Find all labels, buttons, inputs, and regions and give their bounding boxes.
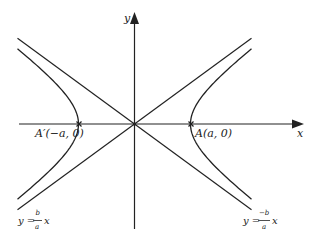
diagram-canvas: y x A′(−a, 0) A(a, 0) y = b a x y = −b a… (0, 0, 324, 241)
y-axis-label: y (123, 12, 131, 25)
asymptote-negative-equation: y = −b a x (242, 209, 278, 231)
hyperbola-diagram: y x A′(−a, 0) A(a, 0) y = b a x y = −b a… (0, 0, 324, 241)
asymptote-positive-equation: y = b a x (17, 209, 50, 231)
equation-numerator: b (36, 209, 41, 217)
vertex-right-label: A(a, 0) (194, 127, 232, 140)
vertex-left-label: A′(−a, 0) (34, 127, 84, 140)
x-axis-label: x (297, 127, 304, 140)
equation-lhs: y = (242, 215, 260, 226)
equation-lhs: y = (17, 215, 35, 226)
origin-point (133, 122, 136, 125)
equation-numerator: −b (259, 209, 270, 217)
equation-variable: x (44, 215, 50, 226)
y-axis-arrow-icon (130, 12, 139, 24)
equation-denominator: a (262, 223, 266, 231)
equation-variable: x (272, 215, 278, 226)
equation-denominator: a (35, 223, 39, 231)
